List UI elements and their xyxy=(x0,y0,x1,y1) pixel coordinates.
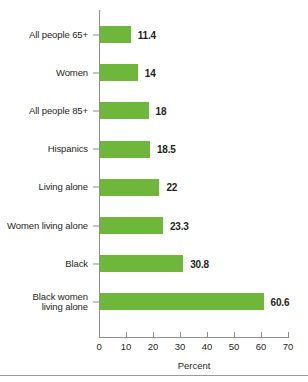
x-tick-mark xyxy=(288,332,289,338)
bar-category-label: Hispanics xyxy=(0,144,88,155)
category-tick-mark xyxy=(93,263,99,264)
bar xyxy=(100,102,149,119)
category-tick-mark xyxy=(93,34,99,35)
bar-row: Living alone22 xyxy=(0,179,308,196)
bar xyxy=(100,293,264,310)
bar-row: Black30.8 xyxy=(0,255,308,272)
bar xyxy=(100,255,183,272)
category-tick-mark xyxy=(93,187,99,188)
category-tick-mark xyxy=(93,110,99,111)
x-tick-label: 70 xyxy=(275,341,301,352)
bar-value-label: 60.6 xyxy=(271,296,290,307)
bar-value-label: 18 xyxy=(156,105,167,116)
x-tick-label: 20 xyxy=(140,341,166,352)
bar-value-label: 18.5 xyxy=(157,144,176,155)
bar xyxy=(100,64,138,81)
bar-row: Black women living alone60.6 xyxy=(0,293,308,310)
bar-category-label: Living alone xyxy=(0,182,88,193)
x-tick-mark xyxy=(99,332,100,338)
bar-category-label: Women xyxy=(0,67,88,78)
bar-value-label: 14 xyxy=(145,67,156,78)
x-tick-mark xyxy=(153,332,154,338)
category-tick-mark xyxy=(93,149,99,150)
bar-row: Women14 xyxy=(0,64,308,81)
bar xyxy=(100,179,159,196)
bar-row: Hispanics18.5 xyxy=(0,141,308,158)
bar-category-label: All people 85+ xyxy=(0,106,88,117)
category-tick-mark xyxy=(93,72,99,73)
x-tick-label: 0 xyxy=(86,341,112,352)
bar-row: All people 85+18 xyxy=(0,102,308,119)
x-tick-label: 10 xyxy=(113,341,139,352)
footer-divider xyxy=(0,375,308,376)
x-tick-mark xyxy=(207,332,208,338)
bar-row: Women living alone23.3 xyxy=(0,217,308,234)
bar-row: All people 65+11.4 xyxy=(0,26,308,43)
bar-category-label: Women living alone xyxy=(0,220,88,231)
x-tick-mark xyxy=(234,332,235,338)
x-tick-label: 30 xyxy=(167,341,193,352)
x-tick-label: 50 xyxy=(221,341,247,352)
bar-category-label: Black women living alone xyxy=(0,291,88,312)
bar-category-label: All people 65+ xyxy=(0,29,88,40)
bar xyxy=(100,217,163,234)
x-tick-mark xyxy=(261,332,262,338)
x-tick-label: 60 xyxy=(248,341,274,352)
bar-value-label: 22 xyxy=(166,182,177,193)
y-axis-line xyxy=(99,10,100,337)
bar xyxy=(100,26,131,43)
x-tick-label: 40 xyxy=(194,341,220,352)
x-tick-mark xyxy=(180,332,181,338)
bar-value-label: 30.8 xyxy=(190,258,209,269)
bar-value-label: 23.3 xyxy=(170,220,189,231)
category-tick-mark xyxy=(93,301,99,302)
bar-value-label: 11.4 xyxy=(138,29,156,40)
x-tick-mark xyxy=(126,332,127,338)
bar-chart: All people 65+11.4Women14All people 85+1… xyxy=(0,0,308,382)
bar-category-label: Black xyxy=(0,258,88,269)
x-axis-title: Percent xyxy=(99,360,289,371)
category-tick-mark xyxy=(93,225,99,226)
bar xyxy=(100,141,150,158)
